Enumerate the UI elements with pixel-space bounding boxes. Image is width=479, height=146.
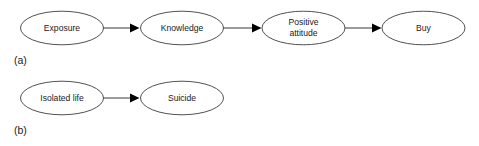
node-label: Knowledge xyxy=(161,23,204,33)
node-label: Exposure xyxy=(44,23,81,33)
edge-exposure-to-knowledge xyxy=(103,24,140,33)
arrowhead-icon xyxy=(130,24,140,33)
edge-isolated-life-to-suicide xyxy=(103,94,140,103)
node-label: Buy xyxy=(416,23,432,33)
panel-b: Isolated life Suicide (b) xyxy=(14,81,224,136)
node-positive-attitude[interactable]: Positive attitude xyxy=(262,11,345,45)
node-buy[interactable]: Buy xyxy=(382,11,465,45)
edge-positive-attitude-to-buy xyxy=(345,24,382,33)
arrowhead-icon xyxy=(130,94,140,103)
node-label-line-2: attitude xyxy=(289,28,317,38)
node-label-line-1: Positive xyxy=(288,17,318,27)
panel-caption-b: (b) xyxy=(14,124,27,136)
node-isolated-life[interactable]: Isolated life xyxy=(21,81,104,115)
arrowhead-icon xyxy=(252,24,262,33)
node-suicide[interactable]: Suicide xyxy=(141,81,224,115)
panel-b-edges xyxy=(103,94,140,103)
panel-a: Exposure Knowledge Positive attitude Buy… xyxy=(14,11,465,66)
node-knowledge[interactable]: Knowledge xyxy=(141,11,224,45)
arrowhead-icon xyxy=(372,24,382,33)
causal-chain-diagram: Exposure Knowledge Positive attitude Buy… xyxy=(0,0,479,146)
node-label: Isolated life xyxy=(40,93,84,103)
node-exposure[interactable]: Exposure xyxy=(21,11,104,45)
edge-knowledge-to-positive-attitude xyxy=(223,24,262,33)
node-label: Suicide xyxy=(168,93,196,103)
panel-caption-a: (a) xyxy=(14,54,27,66)
